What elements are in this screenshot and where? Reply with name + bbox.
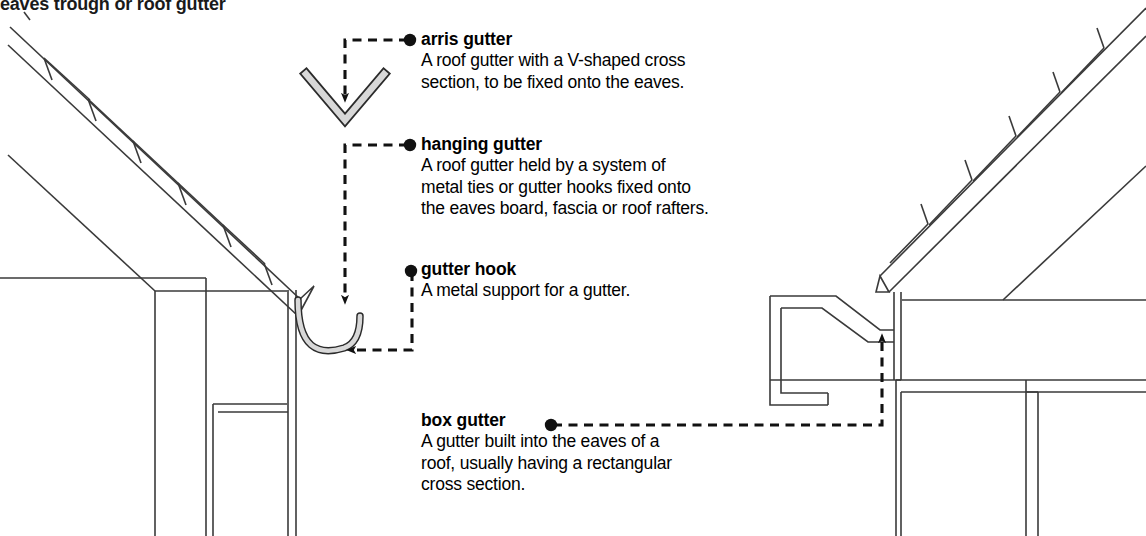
entry-box-gutter: box gutter A gutter built into the eaves… xyxy=(421,409,672,496)
term-gutter-hook: gutter hook xyxy=(421,258,630,280)
right-wall-and-ceiling xyxy=(896,300,1146,536)
term-box-gutter: box gutter xyxy=(421,409,672,431)
arris-gutter-symbol xyxy=(306,74,384,120)
term-arris-gutter: arris gutter xyxy=(421,28,685,50)
diagram-canvas: eaves trough or roof gutter xyxy=(0,0,1146,536)
entry-hanging-gutter: hanging gutter A roof gutter held by a s… xyxy=(421,133,709,220)
leader-gutter-hook xyxy=(351,272,412,350)
hanging-gutter-hook xyxy=(298,300,360,351)
definition-box-gutter: A gutter built into the eaves of a roof,… xyxy=(421,431,672,496)
leader-hanging-gutter xyxy=(345,145,408,300)
bullet-arris-gutter xyxy=(404,34,416,46)
term-hanging-gutter: hanging gutter xyxy=(421,133,709,155)
definition-arris-gutter: A roof gutter with a V-shaped cross sect… xyxy=(421,50,685,93)
definition-hanging-gutter: A roof gutter held by a system of metal … xyxy=(421,155,709,220)
bullet-hanging-gutter xyxy=(404,139,416,151)
definition-gutter-hook: A metal support for a gutter. xyxy=(421,280,630,302)
right-roof-assembly xyxy=(876,8,1146,380)
entry-arris-gutter: arris gutter A roof gutter with a V-shap… xyxy=(421,28,685,93)
left-wall-and-soffit xyxy=(0,278,288,536)
left-roof-assembly xyxy=(8,12,314,536)
entry-gutter-hook: gutter hook A metal support for a gutter… xyxy=(421,258,630,302)
bullet-gutter-hook xyxy=(405,265,417,277)
